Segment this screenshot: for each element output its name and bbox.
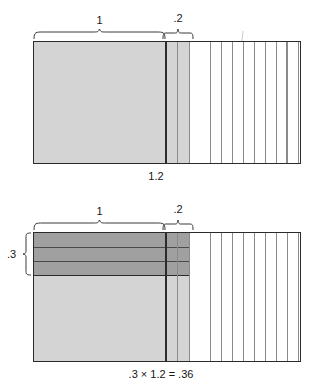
grid-line-18 xyxy=(298,42,299,163)
top-grid-rectangle xyxy=(33,41,301,164)
brace-two-top-bottom xyxy=(162,220,194,230)
grid-line-18-bottom xyxy=(265,233,266,361)
grid-line-16 xyxy=(276,42,277,163)
brace-two-top xyxy=(162,29,194,39)
grid-line-11-bottom xyxy=(177,233,178,361)
unshaded-region xyxy=(189,42,300,163)
grid-line-15 xyxy=(254,42,255,163)
grid-line-11 xyxy=(177,42,178,163)
grid-line-17-bottom xyxy=(254,233,255,361)
grid-line-19-bottom xyxy=(276,233,277,361)
figure-root: 1 .2 xyxy=(0,0,321,391)
grid-line-14-bottom xyxy=(221,233,222,361)
grid-line-17 xyxy=(287,42,288,163)
grid-line-13-bottom xyxy=(210,233,211,361)
brace-two-label: .2 xyxy=(162,12,194,24)
unshaded-region-bottom xyxy=(189,233,300,361)
grid-line-12-bottom xyxy=(189,233,190,361)
top-panel: 1 .2 xyxy=(0,0,321,196)
grid-line-22 xyxy=(265,42,266,163)
stray-mark xyxy=(241,31,243,41)
brace-one-label-bottom: 1 xyxy=(33,205,166,217)
grid-line-19 xyxy=(286,42,287,163)
brace-one-top-bottom xyxy=(33,220,166,230)
grid-line-14 xyxy=(232,42,233,163)
top-caption: 1.2 xyxy=(131,170,181,183)
grid-line-12 xyxy=(189,42,190,163)
brace-one-top xyxy=(33,29,166,39)
grid-line-13 xyxy=(210,42,211,163)
bottom-panel: 1 .2 .3 xyxy=(0,196,321,391)
bottom-grid-rectangle xyxy=(33,232,301,362)
grid-line-unit-1-bottom xyxy=(165,233,167,361)
grid-line-15-bottom xyxy=(232,233,233,361)
brace-one-label: 1 xyxy=(33,14,166,26)
brace-two-label-bottom: .2 xyxy=(162,203,194,215)
grid-line-21-bottom xyxy=(298,233,299,361)
grid-line-16-bottom xyxy=(243,233,244,361)
grid-line-20-bottom xyxy=(287,233,288,361)
grid-line-21 xyxy=(243,42,244,163)
grid-line-20 xyxy=(221,42,222,163)
brace-three-left xyxy=(23,232,32,276)
bottom-caption: .3 × 1.2 = .36 xyxy=(106,368,216,381)
brace-three-label: .3 xyxy=(7,248,16,260)
grid-line-unit-1 xyxy=(165,42,167,163)
